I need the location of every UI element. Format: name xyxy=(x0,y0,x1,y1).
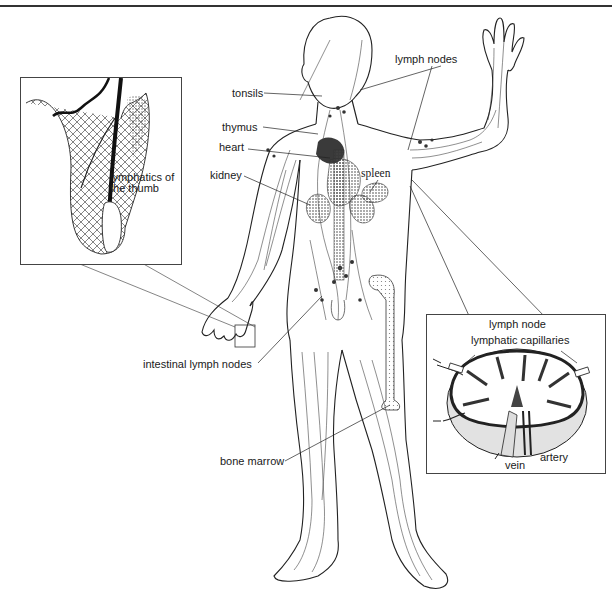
femur-bone xyxy=(369,275,400,410)
label-thymus: thymus xyxy=(222,121,257,133)
label-bone-marrow: bone marrow xyxy=(220,455,284,467)
label-kidney: kidney xyxy=(210,169,242,181)
label-spleen: spleen xyxy=(361,167,390,179)
artery-label: artery xyxy=(540,451,568,463)
aorta xyxy=(334,150,344,280)
label-intestinal-lymph-nodes: intestinal lymph nodes xyxy=(143,358,252,370)
vein-label: vein xyxy=(505,459,525,471)
thumb-caption-line2: the thumb xyxy=(110,182,159,194)
thumb-inset: lymphatics of the thumb xyxy=(20,77,182,265)
lymph-node-inset: lymph node lymphatic capillaries vein ar… xyxy=(426,314,606,474)
label-heart: heart xyxy=(219,141,244,153)
body-outline xyxy=(202,16,524,588)
lymph-vessels xyxy=(232,40,504,580)
label-tonsils: tonsils xyxy=(232,87,263,99)
lymphatic-capillaries-label: lymphatic capillaries xyxy=(471,334,569,346)
label-lymph-nodes: lymph nodes xyxy=(395,53,457,65)
lymph-node-title: lymph node xyxy=(489,318,546,330)
